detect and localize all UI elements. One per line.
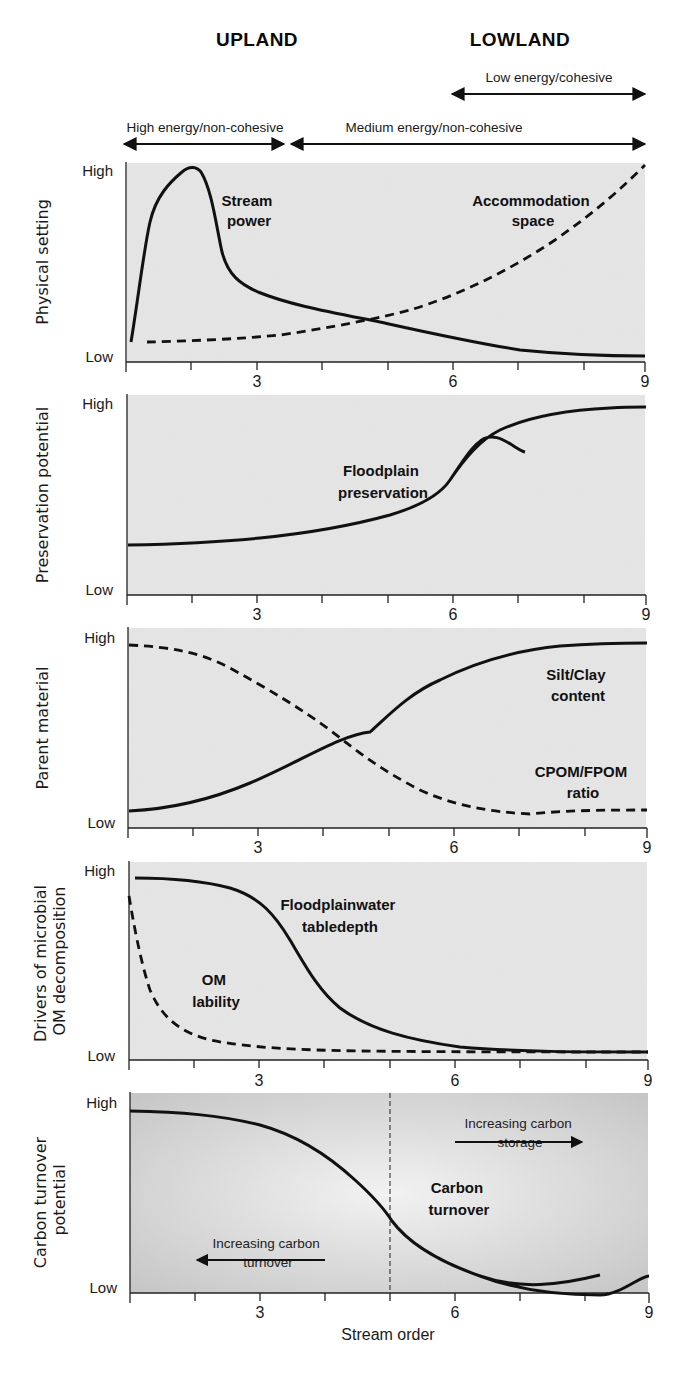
y-low-label: Low: [85, 348, 113, 365]
x-tick-6: 6: [451, 1072, 460, 1089]
y-high-label: High: [82, 395, 113, 412]
y-high-label: High: [86, 1094, 117, 1111]
y-axis-title: Drivers of microbial OM decomposition: [31, 880, 69, 1042]
figure: UPLAND LOWLAND Low energy/cohesive High …: [0, 0, 678, 1373]
high-energy-label: High energy/non-cohesive: [127, 120, 284, 135]
y-high-label: High: [84, 629, 115, 646]
x-tick-3: 3: [253, 373, 262, 390]
x-tick-6: 6: [449, 373, 458, 390]
x-tick-6: 6: [449, 606, 458, 623]
y-low-label: Low: [87, 1047, 115, 1064]
medium-energy-label: Medium energy/non-cohesive: [345, 120, 522, 135]
x-tick-3: 3: [256, 1304, 265, 1321]
y-low-label: Low: [87, 814, 115, 831]
x-ticks: [192, 595, 646, 605]
y-high-label: High: [84, 862, 115, 879]
panel-physical-setting: 3 6 9 High Low Physical setting Stream p…: [33, 162, 650, 390]
x-ticks: [191, 362, 645, 372]
y-low-label: Low: [85, 581, 113, 598]
x-tick-3: 3: [253, 606, 262, 623]
y-axis-title: Preservation potential: [33, 407, 52, 583]
lowland-title: LOWLAND: [470, 29, 571, 50]
x-tick-3: 3: [255, 1072, 264, 1089]
y-axis-title: Physical setting: [33, 199, 52, 325]
panel-parent-material: 3 6 9 High Low Parent material Silt/Clay…: [33, 627, 652, 856]
x-ticks: [194, 1060, 648, 1070]
x-tick-3: 3: [254, 839, 263, 856]
x-ticks: [193, 828, 647, 838]
upland-title: UPLAND: [216, 29, 298, 50]
x-tick-6: 6: [450, 839, 459, 856]
y-axis-title: Parent material: [33, 666, 52, 789]
header: UPLAND LOWLAND Low energy/cohesive High …: [124, 29, 645, 144]
x-tick-9: 9: [642, 606, 651, 623]
x-tick-9: 9: [643, 839, 652, 856]
x-tick-9: 9: [645, 1304, 654, 1321]
panel-drivers-om-decomposition: 3 6 9 High Low Drivers of microbial OM d…: [31, 861, 653, 1089]
x-tick-9: 9: [644, 1072, 653, 1089]
panel-carbon-turnover: 3 6 9 Stream order High Low Carbon turno…: [31, 1092, 654, 1343]
panel-preservation-potential: 3 6 9 High Low Preservation potential Fl…: [33, 394, 651, 623]
y-axis-title: Carbon turnover potential: [31, 1132, 69, 1268]
y-high-label: High: [82, 162, 113, 179]
x-axis-title: Stream order: [341, 1326, 435, 1343]
low-energy-label: Low energy/cohesive: [486, 70, 613, 85]
x-tick-9: 9: [641, 373, 650, 390]
x-tick-6: 6: [451, 1304, 460, 1321]
y-low-label: Low: [89, 1279, 117, 1296]
